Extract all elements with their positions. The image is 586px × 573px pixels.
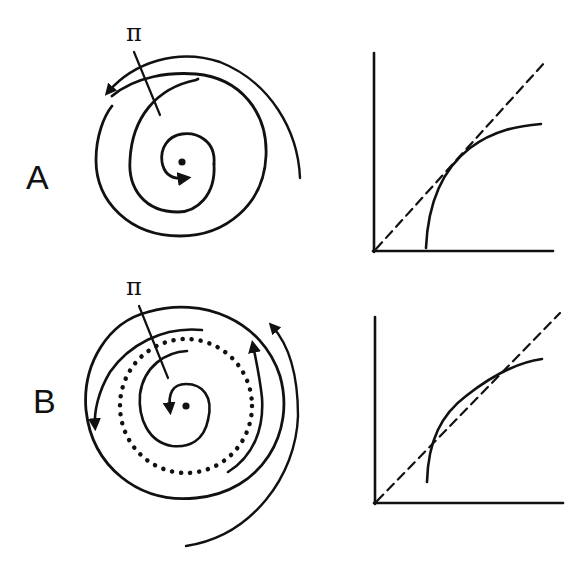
panel-a: A π [26,19,553,252]
panel-b: B π [33,273,563,546]
panel-a-pi-symbol: π [126,19,142,47]
panel-a-equilibrium-point [178,158,185,165]
panel-a-label: A [26,158,49,196]
panel-b-inner-spiral [170,384,210,420]
panel-b-phase-portrait: π [86,273,298,546]
panel-a-graph [373,53,553,252]
panel-b-response-curve [427,359,542,482]
panel-b-equilibrium-point [182,402,189,409]
panel-b-diagonal-dashed [377,313,560,501]
panel-a-phase-portrait: π [96,19,300,236]
panel-b-arc-right-up [228,345,262,472]
panel-b-pi-symbol: π [126,273,142,301]
figure-canvas: A π B π [0,0,586,573]
panel-b-outer-trajectory-arrow [186,326,298,546]
panel-a-spiral-middle [130,79,214,212]
panel-b-label: B [33,382,56,420]
panel-b-arc-left-down [95,329,202,426]
panel-b-graph [374,313,563,504]
panel-b-spiral-inner-turn [140,351,208,446]
panel-a-inner-spiral [162,134,214,179]
panel-a-response-curve [426,124,541,248]
